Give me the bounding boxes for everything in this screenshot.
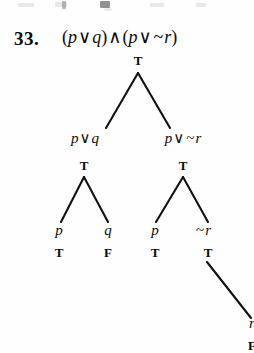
leaf-1-value: T bbox=[55, 246, 64, 259]
or-operator: ∨ bbox=[172, 130, 185, 146]
scan-artifact bbox=[150, 3, 164, 7]
var-q: q bbox=[91, 130, 99, 146]
node-left-value: T bbox=[80, 159, 89, 172]
root-value: T bbox=[134, 54, 143, 67]
tree-branches bbox=[0, 0, 254, 353]
var-p: p bbox=[71, 130, 79, 146]
branch-left-q bbox=[84, 177, 108, 222]
leaf-2-formula: q bbox=[104, 223, 112, 238]
not-operator: ~ bbox=[185, 130, 195, 146]
leaf-4-value: T bbox=[204, 246, 213, 259]
or-operator: ∨ bbox=[79, 130, 92, 146]
leaf-2-value: F bbox=[104, 246, 112, 259]
branch-right-nr bbox=[183, 177, 208, 222]
scan-artifact bbox=[196, 3, 206, 7]
branch-root-left bbox=[106, 73, 138, 128]
or-operator: ∨ bbox=[137, 27, 152, 47]
truth-tree-page: 33. (p∨q)∧(p∨~r) T p∨q T p∨~r T p T q F … bbox=[0, 0, 254, 353]
leaf-5-value: F bbox=[248, 339, 254, 352]
var-p: p bbox=[68, 27, 77, 47]
branch-root-right bbox=[138, 73, 170, 128]
branch-left-p bbox=[61, 177, 84, 222]
paren-close: ) bbox=[171, 27, 177, 47]
not-operator: ~ bbox=[153, 27, 165, 47]
scan-artifact bbox=[18, 3, 34, 7]
and-operator: ∧ bbox=[107, 27, 122, 47]
leaf-3-formula: p bbox=[151, 223, 159, 238]
node-right-formula: p∨~r bbox=[165, 131, 201, 146]
exercise-number: 33. bbox=[14, 28, 39, 50]
or-operator: ∨ bbox=[77, 27, 92, 47]
leaf-3-value: T bbox=[151, 246, 160, 259]
leaf-5-formula: r bbox=[249, 316, 254, 331]
branch-right-p bbox=[156, 177, 183, 222]
root-formula: (p∨q)∧(p∨~r) bbox=[62, 26, 177, 48]
leaf-4-formula: ~r bbox=[195, 223, 211, 238]
var-q: q bbox=[92, 27, 101, 47]
node-right-value: T bbox=[179, 159, 188, 172]
scan-artifact bbox=[100, 1, 110, 8]
not-operator: ~ bbox=[195, 222, 205, 238]
scan-artifact bbox=[62, 1, 66, 9]
leaf-1-formula: p bbox=[55, 223, 63, 238]
branch-nr-r bbox=[207, 262, 251, 318]
scan-artifact bbox=[104, 8, 112, 11]
node-left-formula: p∨q bbox=[71, 131, 99, 146]
var-r: r bbox=[205, 222, 211, 238]
var-p: p bbox=[165, 130, 173, 146]
var-r: r bbox=[195, 130, 201, 146]
